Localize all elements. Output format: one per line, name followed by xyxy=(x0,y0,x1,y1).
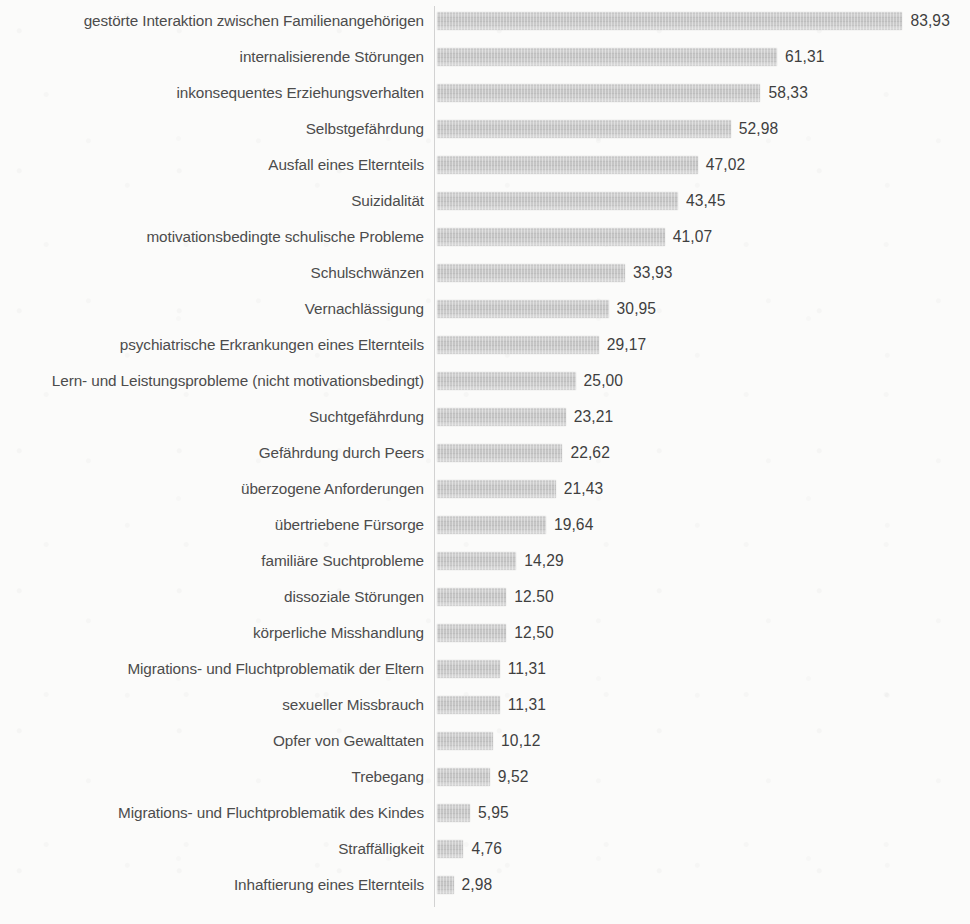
bar-and-value: 2,98 xyxy=(437,876,492,894)
bar-row: motivationsbedingte schulische Probleme4… xyxy=(0,219,970,255)
bar-value-label: 9,52 xyxy=(498,768,529,786)
category-label: dissoziale Störungen xyxy=(0,588,424,606)
bar-and-value: 43,45 xyxy=(437,192,725,210)
bar-and-value: 12.50 xyxy=(437,588,554,606)
category-label: Migrations- und Fluchtproblematik der El… xyxy=(0,660,424,678)
category-label: Straffälligkeit xyxy=(0,840,424,858)
bar-value-label: 4,76 xyxy=(471,840,502,858)
bar-row: Gefährdung durch Peers22,62 xyxy=(0,435,970,471)
category-label: Suchtgefährdung xyxy=(0,408,424,426)
bar-value-label: 23,21 xyxy=(574,408,614,426)
bar-row: Migrations- und Fluchtproblematik des Ki… xyxy=(0,795,970,831)
bar xyxy=(437,804,470,822)
bar-and-value: 61,31 xyxy=(437,48,825,66)
bar xyxy=(437,768,490,786)
bar-value-label: 10,12 xyxy=(501,732,541,750)
bar-and-value: 10,12 xyxy=(437,732,541,750)
bar-row: überzogene Anforderungen21,43 xyxy=(0,471,970,507)
category-label: inkonsequentes Erziehungsverhalten xyxy=(0,84,424,102)
bar-row: körperliche Misshandlung12,50 xyxy=(0,615,970,651)
category-label: Migrations- und Fluchtproblematik des Ki… xyxy=(0,804,424,822)
bar-and-value: 29,17 xyxy=(437,336,646,354)
category-label: körperliche Misshandlung xyxy=(0,624,424,642)
bar-value-label: 11,31 xyxy=(508,660,546,678)
category-label: Opfer von Gewalttaten xyxy=(0,732,424,750)
bar-value-label: 33,93 xyxy=(633,264,673,282)
bar xyxy=(437,696,500,714)
category-label: Ausfall eines Elternteils xyxy=(0,156,424,174)
bar-row: Suizidalität43,45 xyxy=(0,183,970,219)
bar-value-label: 14,29 xyxy=(524,552,564,570)
bar-row: Lern- und Leistungsprobleme (nicht motiv… xyxy=(0,363,970,399)
bar-value-label: 19,64 xyxy=(554,516,594,534)
bar-and-value: 4,76 xyxy=(437,840,502,858)
bar-and-value: 33,93 xyxy=(437,264,673,282)
bar-row: Vernachlässigung30,95 xyxy=(0,291,970,327)
horizontal-bar-chart: gestörte Interaktion zwischen Familienan… xyxy=(0,0,970,924)
bar-value-label: 30,95 xyxy=(617,300,657,318)
bar-row: gestörte Interaktion zwischen Familienan… xyxy=(0,3,970,39)
bar xyxy=(437,156,698,174)
bar-row: Schulschwänzen33,93 xyxy=(0,255,970,291)
bar xyxy=(437,228,665,246)
bar-and-value: 12,50 xyxy=(437,624,554,642)
bar-row: Selbstgefährdung52,98 xyxy=(0,111,970,147)
bar-value-label: 29,17 xyxy=(607,336,647,354)
category-label: internalisierende Störungen xyxy=(0,48,424,66)
category-label: Suizidalität xyxy=(0,192,424,210)
bar-value-label: 12.50 xyxy=(514,588,554,606)
category-label: gestörte Interaktion zwischen Familienan… xyxy=(0,12,424,30)
bar-value-label: 2,98 xyxy=(462,876,493,894)
bar-and-value: 58,33 xyxy=(437,84,808,102)
bar-row: inkonsequentes Erziehungsverhalten58,33 xyxy=(0,75,970,111)
bar-row: Ausfall eines Elternteils47,02 xyxy=(0,147,970,183)
bar xyxy=(437,660,500,678)
bar-row: familiäre Suchtprobleme14,29 xyxy=(0,543,970,579)
bar xyxy=(437,588,506,606)
bar-value-label: 22,62 xyxy=(570,444,610,462)
category-label: Gefährdung durch Peers xyxy=(0,444,424,462)
bar xyxy=(437,876,454,894)
bar-value-label: 25,00 xyxy=(584,372,624,390)
bar-value-label: 52,98 xyxy=(739,120,779,138)
bar-value-label: 58,33 xyxy=(768,84,808,102)
bar-row: Trebegang9,52 xyxy=(0,759,970,795)
bar xyxy=(437,732,493,750)
bar-value-label: 11,31 xyxy=(508,696,546,714)
bar-value-label: 5,95 xyxy=(478,804,509,822)
bar-value-label: 43,45 xyxy=(686,192,726,210)
bar-and-value: 14,29 xyxy=(437,552,564,570)
category-label: Lern- und Leistungsprobleme (nicht motiv… xyxy=(0,372,424,390)
category-label: Inhaftierung eines Elternteils xyxy=(0,876,424,894)
bar-row: psychiatrische Erkrankungen eines Eltern… xyxy=(0,327,970,363)
bar-and-value: 22,62 xyxy=(437,444,610,462)
bar-and-value: 30,95 xyxy=(437,300,656,318)
bar-row: Straffälligkeit4,76 xyxy=(0,831,970,867)
bar-row: Opfer von Gewalttaten10,12 xyxy=(0,723,970,759)
bar-row: dissoziale Störungen12.50 xyxy=(0,579,970,615)
bar-and-value: 52,98 xyxy=(437,120,778,138)
bar-value-label: 41,07 xyxy=(673,228,713,246)
bar-and-value: 83,93 xyxy=(437,12,950,30)
bar xyxy=(437,300,609,318)
bar xyxy=(437,552,516,570)
bar xyxy=(437,264,625,282)
category-label: motivationsbedingte schulische Probleme xyxy=(0,228,424,246)
bar-row: Migrations- und Fluchtproblematik der El… xyxy=(0,651,970,687)
bar-value-label: 47,02 xyxy=(706,156,746,174)
bar xyxy=(437,408,566,426)
bar-and-value: 41,07 xyxy=(437,228,712,246)
bar xyxy=(437,12,902,30)
bar-value-label: 12,50 xyxy=(514,624,554,642)
bar-and-value: 11,31 xyxy=(437,696,546,714)
bar-and-value: 11,31 xyxy=(437,660,546,678)
category-label: familiäre Suchtprobleme xyxy=(0,552,424,570)
bar-and-value: 25,00 xyxy=(437,372,623,390)
bar xyxy=(437,624,506,642)
bar-row: sexueller Missbrauch11,31 xyxy=(0,687,970,723)
category-label: überzogene Anforderungen xyxy=(0,480,424,498)
bar xyxy=(437,48,777,66)
category-label: psychiatrische Erkrankungen eines Eltern… xyxy=(0,336,424,354)
bar xyxy=(437,120,731,138)
category-label: Vernachlässigung xyxy=(0,300,424,318)
